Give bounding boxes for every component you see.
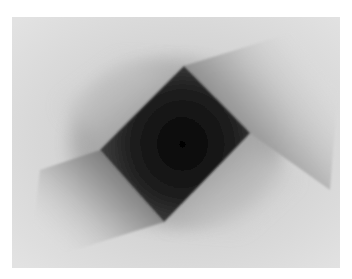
abstract-square-artwork bbox=[0, 0, 352, 279]
image-frame bbox=[0, 0, 352, 279]
